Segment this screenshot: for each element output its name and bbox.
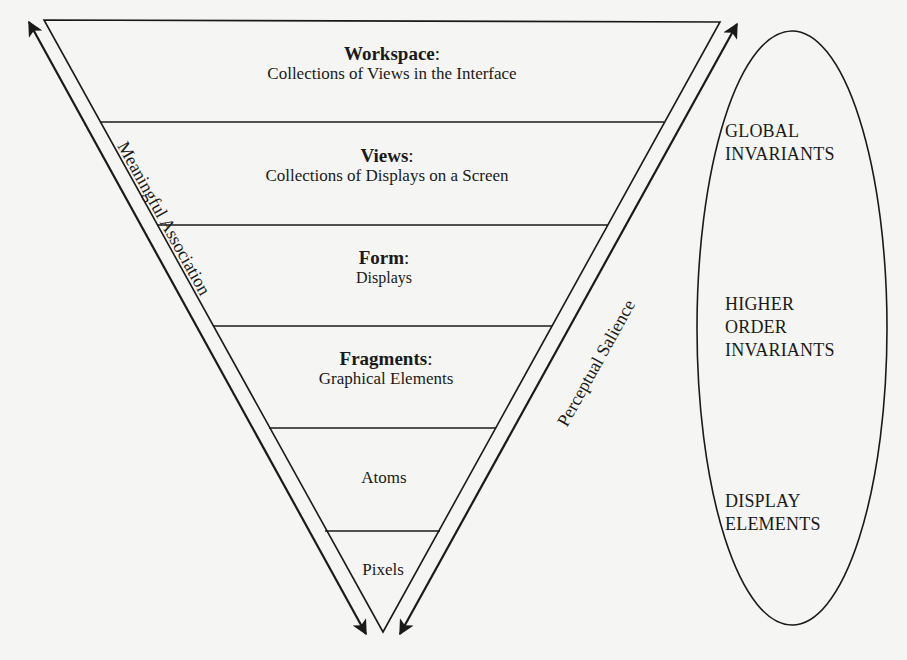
level-form-title: Form [359, 247, 404, 268]
level-atoms: Atoms [361, 469, 406, 488]
display-elements-line-1: DISPLAY [725, 490, 821, 513]
perceptual-salience-arrow [400, 24, 737, 634]
level-fragments-title: Fragments [340, 348, 428, 369]
higher-order-invariants-label: HIGHER ORDER INVARIANTS [725, 293, 835, 362]
level-form-colon: : [404, 247, 409, 268]
higher-order-line-1: HIGHER [725, 293, 835, 316]
global-invariants-label: GLOBAL INVARIANTS [725, 120, 835, 166]
level-workspace-title: Workspace [344, 43, 435, 64]
global-invariants-line-2: INVARIANTS [725, 143, 835, 166]
display-elements-label: DISPLAY ELEMENTS [725, 490, 821, 536]
level-views-colon: : [408, 145, 413, 166]
level-fragments: Fragments: Graphical Elements [319, 349, 454, 389]
level-views: Views: Collections of Displays on a Scre… [265, 146, 508, 186]
level-fragments-colon: : [427, 348, 432, 369]
meaningful-association-arrow [29, 22, 366, 634]
higher-order-line-3: INVARIANTS [725, 339, 835, 362]
level-views-description: Collections of Displays on a Screen [265, 167, 508, 186]
level-pixels: Pixels [362, 561, 404, 580]
level-workspace-description: Collections of Views in the Interface [267, 65, 516, 84]
global-invariants-line-1: GLOBAL [725, 120, 835, 143]
level-form-description: Displays [356, 269, 412, 287]
level-views-title: Views [360, 145, 408, 166]
level-form: Form: Displays [356, 248, 412, 286]
level-fragments-description: Graphical Elements [319, 370, 454, 389]
display-elements-line-2: ELEMENTS [725, 513, 821, 536]
level-workspace: Workspace: Collections of Views in the I… [267, 44, 516, 84]
level-workspace-colon: : [435, 43, 440, 64]
higher-order-line-2: ORDER [725, 316, 835, 339]
